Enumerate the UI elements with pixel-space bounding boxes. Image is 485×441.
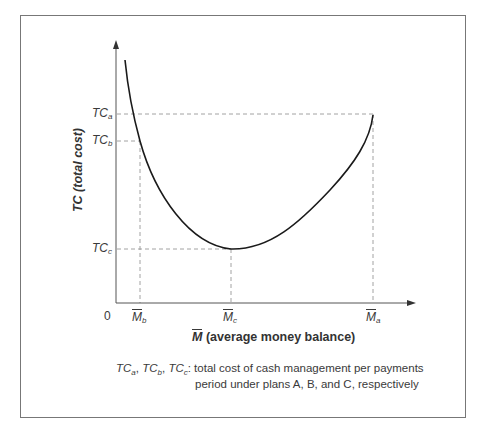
tick-label-tcb: TCb [92,133,112,148]
tick-label-mc: Mc [223,310,237,325]
x-axis-arrow-icon [407,300,416,306]
tick-label-tca: TCa [92,106,112,121]
tick-label-mb: Mb [132,310,146,325]
y-axis-title: TC (total cost) [71,128,85,212]
axes [116,46,410,303]
tick-label-ma: Ma [366,310,380,325]
reference-lines [117,114,373,303]
y-axis-arrow-icon [113,40,119,49]
origin-label: 0 [104,309,111,323]
tick-label-tcc: TCc [92,241,112,256]
total-cost-curve [125,60,373,249]
note-line-1: TCa, TCb, TCc: total cost of cash manage… [116,362,424,377]
x-axis-title: M (average money balance) [192,330,355,344]
note-line-2: period under plans A, B, and C, respecti… [195,378,419,390]
